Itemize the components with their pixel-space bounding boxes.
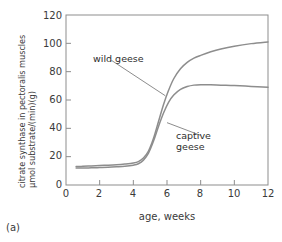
figure-panel-a: citrate synthase in pectoralis muscles μ… [0,0,282,242]
series-label-wild-geese: wild geese [93,53,144,64]
series-label-captive-geese: captive geese [176,130,211,152]
plot-area [0,0,282,242]
x-axis-title: age, weeks [66,211,268,222]
panel-label: (a) [6,222,20,233]
axes-frame [66,15,268,185]
series-label-captive-line1: captive [176,130,211,141]
series-label-captive-line2: geese [176,141,211,152]
